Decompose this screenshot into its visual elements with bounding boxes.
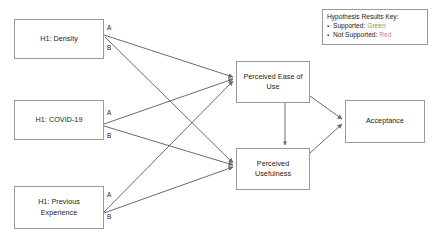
path-label-density-b: B xyxy=(107,45,111,51)
legend-item-supported-term: Supported: xyxy=(333,22,365,31)
node-h1-density-label: H1: Density xyxy=(36,34,82,44)
edge-previous-b-to-usefulness xyxy=(104,167,233,213)
node-perceived-ease-of-use-label: Perceived Ease of Use xyxy=(237,72,309,93)
legend-hypothesis-results-key: Hypothesis Results Key: ▪ Supported: Gre… xyxy=(322,9,428,45)
path-label-density-a: A xyxy=(107,25,111,31)
legend-list: ▪ Supported: Green ▪ Not Supported: Red xyxy=(327,22,423,40)
node-perceived-usefulness-label: Perceived Usefulness xyxy=(237,159,309,180)
path-label-previous-b: B xyxy=(107,214,111,220)
legend-item-supported: ▪ Supported: Green xyxy=(327,22,423,31)
path-label-covid-a: A xyxy=(107,110,111,116)
edge-density-a-to-ease xyxy=(104,35,233,77)
edge-previous-a-to-ease xyxy=(104,81,233,212)
edge-usefulness-to-acceptance xyxy=(310,124,342,153)
legend-item-not-supported-term: Not Supported: xyxy=(333,31,377,40)
node-h1-previous-experience[interactable]: H1: Previous Experience xyxy=(14,186,104,229)
legend-item-not-supported: ▪ Not Supported: Red xyxy=(327,31,423,40)
edge-covid-a-to-ease xyxy=(104,79,233,124)
edge-density-b-to-usefulness xyxy=(105,37,233,163)
path-label-covid-b: B xyxy=(107,133,111,139)
node-h1-covid-19[interactable]: H1: COVID-19 xyxy=(14,100,104,140)
path-label-previous-a: A xyxy=(107,192,111,198)
node-perceived-usefulness[interactable]: Perceived Usefulness xyxy=(236,148,310,190)
node-h1-density[interactable]: H1: Density xyxy=(14,19,104,59)
legend-title: Hypothesis Results Key: xyxy=(327,13,423,21)
node-perceived-ease-of-use[interactable]: Perceived Ease of Use xyxy=(236,61,310,103)
node-acceptance-label: Acceptance xyxy=(362,116,408,126)
node-h1-covid-19-label: H1: COVID-19 xyxy=(32,115,87,125)
edge-covid-b-to-usefulness xyxy=(104,126,233,165)
node-acceptance[interactable]: Acceptance xyxy=(345,100,425,143)
node-h1-previous-experience-label: H1: Previous Experience xyxy=(34,197,84,218)
legend-item-not-supported-value: Red xyxy=(379,31,391,40)
legend-item-supported-value: Green xyxy=(367,22,385,31)
edge-ease-to-acceptance xyxy=(310,96,342,119)
diagram-canvas: H1: Density H1: COVID-19 H1: Previous Ex… xyxy=(0,0,437,239)
